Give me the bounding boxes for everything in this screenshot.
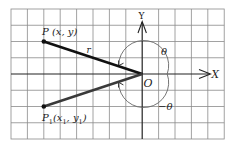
- point-P: [42, 39, 47, 44]
- label-theta: θ: [161, 46, 167, 57]
- label-neg-theta: −θ: [158, 101, 172, 112]
- label-P: P (x, y): [41, 26, 77, 37]
- point-P1: [42, 104, 47, 109]
- polar-diagram: P (x, y) P1(x1, y1) r θ −θ O X Y: [0, 0, 233, 147]
- x-axis: [11, 70, 211, 79]
- label-y-axis: Y: [137, 11, 145, 21]
- label-P1: P1(x1, y1): [41, 112, 87, 126]
- label-r: r: [87, 45, 92, 55]
- label-x-axis: X: [211, 68, 220, 80]
- label-origin: O: [144, 77, 153, 90]
